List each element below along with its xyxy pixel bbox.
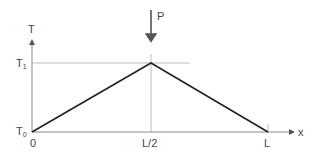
temperature-profile-diagram: P T x T1 T0 0 L/2 L [0,0,314,154]
load-label: P [157,10,164,22]
y-axis-label: T [28,23,35,35]
x-tick-half-l: L/2 [142,137,157,149]
y-tick-t1: T1 [16,57,27,70]
x-tick-l: L [264,137,270,149]
x-tick-0: 0 [30,137,36,149]
x-axis-label: x [298,126,304,138]
y-tick-t0: T0 [16,125,27,138]
temperature-curve [32,63,268,132]
